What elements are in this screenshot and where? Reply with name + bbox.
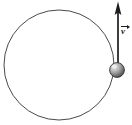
vector-arrow-overbar-icon — [121, 25, 125, 28]
figure-canvas — [0, 0, 132, 125]
orbit-circle — [4, 10, 114, 120]
circular-motion-figure: v — [0, 0, 132, 125]
ball-sphere — [110, 63, 125, 78]
ball-highlight-icon — [112, 65, 117, 69]
velocity-vector-label: v — [121, 25, 125, 36]
velocity-symbol: v — [121, 27, 125, 36]
